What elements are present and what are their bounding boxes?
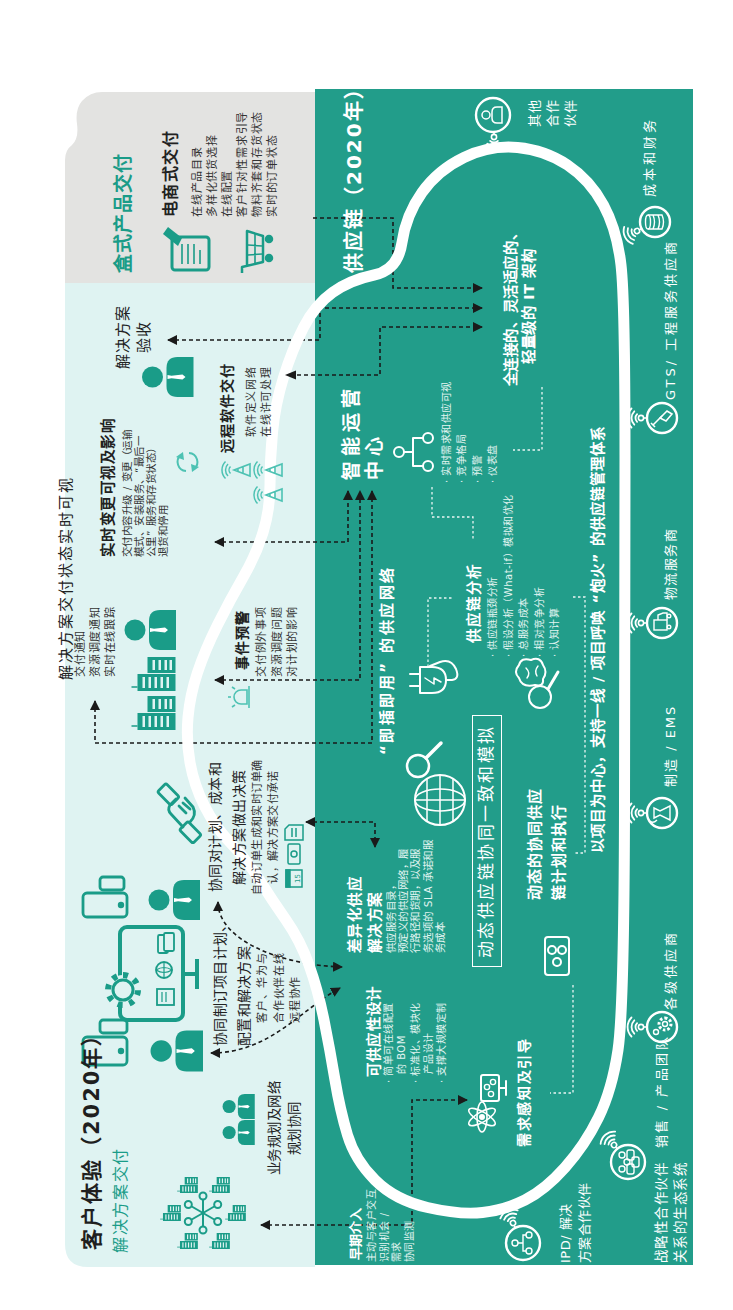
design-for-supply-title: 可供应性设计	[366, 986, 383, 1077]
ops-center-item: · 预警	[470, 381, 485, 483]
partner-label-line: 合作	[544, 95, 562, 131]
realtime-change-line: 模式、安装服务、“最后一	[133, 430, 145, 557]
co-planning-title-line: 配置和解决方案	[232, 917, 256, 1046]
dynamic-planning-text: 动态的协同供应 链计划和执行	[523, 788, 571, 900]
co-decision-desc-line: 自动订单生成和实时订单确	[250, 742, 266, 912]
ops-center-items: · 实时需求和供应可视 · 竞争格局 · 预警 · 仪表盘	[439, 381, 500, 483]
ecosystem-caption-line: 关系的生态系统	[671, 1162, 690, 1264]
differentiated-supply-title-line: 差异化供应	[345, 876, 365, 954]
acceptance-line: 验收	[134, 299, 155, 375]
ecommerce-item: 实时的订单状态	[265, 111, 280, 217]
early-engagement-line: 主动与客户交互	[366, 1189, 379, 1263]
realtime-change-line: 公里” 服务和存货状态）	[145, 430, 157, 557]
ops-center-title: 智能运营 中心	[340, 384, 386, 480]
design-item: · 支撑大规模定制	[435, 1002, 448, 1083]
analytics-item: · 总服务成本	[516, 494, 532, 657]
people-network-icon	[506, 1226, 540, 1260]
box-delivery-title: 盒式产品交付	[112, 153, 135, 273]
realtime-change-desc: 交付内容升级 / 变更（运输 模式、安装服务、“最后一 公里” 服务和存货状态）…	[121, 430, 169, 557]
ecommerce-item: 多样化供货选择	[205, 111, 220, 217]
acceptance-label: 解决方案 验收	[113, 299, 155, 375]
analytics-title: 供应链分析	[466, 563, 483, 643]
business-planning-line: 规划协同	[284, 1072, 304, 1184]
remote-software-item: 在线许可处理	[260, 366, 275, 437]
it-architecture-text: 全连接的、灵活适应的、 轻量级的 IT 架构	[503, 214, 538, 398]
partner-label-ipd: IPD/ 解决 方案合作伙伴	[556, 1182, 594, 1263]
analytics-item: · 供应链瓶颈分析	[485, 494, 501, 657]
customer-experience-title: 客户体验（2020年）	[80, 1023, 105, 1250]
co-planning-desc: 客户、华为与 合作伙伴在线 远程协作	[255, 952, 305, 1023]
customer-experience-subtitle: 解决方案交付	[111, 1147, 130, 1253]
partner-label-line: IPD/ 解决	[556, 1182, 575, 1263]
delivery-notice-list: 交付通知 资源调度通知 实时在线跟踪	[73, 606, 118, 677]
design-for-supply-items: · 简单可在线配置 的 BOM · 标准化、模块化 产品设计 · 支撑大规模定制	[382, 1002, 448, 1083]
partner-label-gts: GTS/ 工程服务供应商	[663, 239, 679, 400]
truck-icon	[647, 608, 677, 638]
business-planning-line: 业务规划及网络	[264, 1072, 284, 1184]
early-engagement-desc: 主动与客户交互 识别机会 / 需求 协同监测	[366, 1189, 416, 1263]
delivery-notice-item: 实时在线跟踪	[103, 606, 118, 677]
analytics-item: · 假设分析（What-if）模拟和优化	[501, 494, 517, 657]
remote-software-title: 远程软件交付	[219, 363, 236, 453]
project-centric-text: 以项目为中心，支持一线 / 项目呼唤 “炮火” 的供应链管理体系	[590, 426, 607, 853]
shovel-icon	[647, 403, 677, 433]
event-alert-desc: 交付例外事项 资源调度问题 对计划的影响	[254, 606, 301, 677]
co-planning-title: 协同制订项目计划、 配置和解决方案	[208, 917, 256, 1046]
analytics-items: · 供应链瓶颈分析 · 假设分析（What-if）模拟和优化 · 总服务成本 ·…	[485, 494, 563, 657]
acceptance-line: 解决方案	[113, 299, 134, 375]
design-item: 产品设计	[422, 1002, 435, 1083]
remote-software-desc: 软件定义网络 在线许可处理	[245, 366, 274, 437]
early-engagement-line: 协同监测	[404, 1189, 417, 1263]
ops-center-title-line: 智能运营	[340, 384, 363, 480]
partner-label-line: 其他	[526, 95, 544, 131]
dynamic-planning-line: 动态的协同供应	[523, 788, 547, 900]
ecommerce-items: 在线产品目录 多样化供货选择 在线配置 客户针对性需求引导 物料齐套和存货状态 …	[190, 111, 280, 217]
supply-chain-diagram: 15	[0, 0, 733, 1310]
realtime-change-line: 退货和停用	[157, 430, 169, 557]
demand-sensing-title: 需求感知及引导	[516, 1037, 533, 1147]
co-planning-desc-line: 客户、华为与	[255, 952, 272, 1023]
event-alert-item: 资源调度问题	[270, 606, 286, 677]
co-decision-title: 协同对计划、成本和 解决方案做出决策	[203, 742, 251, 912]
analytics-item: · 认知计算	[547, 494, 563, 657]
differentiated-supply-line: 供应服务目录，	[385, 840, 397, 953]
differentiated-supply-title-line: 解决方案	[365, 876, 385, 954]
plug-and-play-title: “即插即用” 的供应网络	[378, 565, 396, 755]
differentiated-supply-line: 务成本	[434, 840, 446, 953]
co-decision-desc: 自动订单生成和实时订单确 认，解决方案交付承诺	[250, 742, 282, 912]
ops-center-item: · 实时需求和供应可视	[439, 381, 454, 483]
partner-label-line: 伙伴	[562, 95, 580, 131]
partner-label-suppliers: 各级供应商	[663, 930, 679, 1010]
co-decision-title-line: 协同对计划、成本和	[203, 742, 227, 912]
delivery-notice-item: 交付通知	[73, 606, 88, 677]
design-item: · 标准化、模块化	[409, 1002, 422, 1083]
ecommerce-title: 电商式交付	[161, 130, 180, 217]
it-architecture-line: 轻量级的 IT 架构	[521, 214, 539, 398]
early-engagement-title: 早期介入	[348, 1208, 364, 1260]
realtime-change-line: 交付内容升级 / 变更（运输	[121, 430, 133, 557]
supply-chain-title: 供应链（2020年）	[342, 77, 366, 273]
ecosystem-caption-line: 战略性合作伙伴	[652, 1162, 671, 1264]
ecommerce-item: 客户针对性需求引导	[235, 111, 250, 217]
design-item: · 简单可在线配置	[382, 1002, 395, 1083]
ops-center-item: · 仪表盘	[485, 381, 500, 483]
partner-label-logistics: 物流服务商	[663, 528, 679, 601]
business-planning-text: 业务规划及网络 规划协同	[264, 1072, 304, 1184]
ecommerce-item: 在线产品目录	[190, 111, 205, 217]
ecosystem-caption: 战略性合作伙伴 关系的生态系统	[652, 1162, 690, 1264]
differentiated-supply-line: 预定义的供应网络，履	[397, 840, 409, 953]
delivery-notice-item: 资源调度通知	[88, 606, 103, 677]
dynamic-simulation-box: 动态供应链协同一致和模拟	[472, 715, 502, 967]
early-engagement-line: 需求	[391, 1189, 404, 1263]
team-icon	[611, 1145, 645, 1179]
factory-icon	[647, 798, 677, 828]
event-alert-item: 对计划的影响	[285, 606, 301, 677]
differentiated-supply-desc: 供应服务目录， 预定义的供应网络，履 行路径和货期，以及服 务选项的 SLA 承…	[385, 840, 446, 953]
co-planning-desc-line: 合作伙伴在线	[272, 952, 289, 1023]
design-item: 的 BOM	[395, 1002, 408, 1083]
svg-text:15: 15	[294, 874, 302, 883]
differentiated-supply-title: 差异化供应 解决方案	[345, 876, 385, 954]
ecommerce-item: 物料齐套和存货状态	[250, 111, 265, 217]
it-architecture-line: 全连接的、灵活适应的、	[503, 214, 521, 398]
differentiated-supply-line: 行路径和货期，以及服	[409, 840, 421, 953]
